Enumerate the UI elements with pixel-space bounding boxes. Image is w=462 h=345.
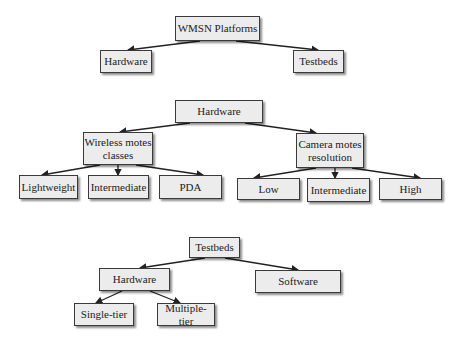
node-lightweight: Lightweight	[19, 175, 78, 199]
edge-t1-root-hardware	[128, 41, 200, 50]
edge-t2-wireless-pda	[136, 165, 203, 175]
node-label: High	[400, 183, 422, 196]
node-label: Low	[258, 183, 278, 196]
edge-t2-wireless-lightweight	[42, 165, 100, 175]
edge-t3-hardware-single	[96, 291, 122, 303]
node-label: Intermediate	[311, 184, 367, 197]
edge-t2-root-wireless	[120, 123, 190, 132]
node-pda: PDA	[159, 175, 222, 199]
edges-layer	[0, 0, 462, 345]
node-testbeds-software: Software	[255, 270, 341, 293]
node-label: Lightweight	[22, 181, 76, 194]
node-label: Intermediate	[91, 181, 147, 194]
node-high: High	[379, 178, 442, 200]
node-testbeds: Testbeds	[293, 50, 344, 73]
node-label: PDA	[179, 181, 201, 194]
edge-t3-root-software	[225, 258, 298, 270]
node-label: Multiple-tier	[158, 302, 214, 328]
node-intermediate-camera: Intermediate	[307, 178, 370, 202]
node-label: Software	[278, 275, 318, 288]
node-intermediate-wireless: Intermediate	[88, 175, 149, 199]
node-hardware: Hardware	[100, 50, 152, 73]
edge-t1-root-testbeds	[236, 41, 318, 50]
node-testbeds-root: Testbeds	[189, 237, 240, 258]
node-wmsn-platforms: WMSN Platforms	[175, 16, 260, 41]
edge-t3-root-hardware	[140, 258, 205, 268]
node-testbeds-hardware: Hardware	[99, 268, 170, 291]
edge-t2-camera-high	[352, 168, 420, 178]
node-wireless-motes-classes: Wireless motes classes	[83, 132, 153, 165]
edge-t2-root-camera	[245, 123, 316, 133]
node-label-line1: Wireless motes	[84, 136, 151, 149]
node-label-line2: resolution	[308, 151, 352, 164]
node-label: Testbeds	[299, 55, 337, 68]
node-multiple-tier: Multiple-tier	[157, 303, 215, 326]
node-label: Hardware	[104, 55, 147, 68]
diagram-canvas: WMSN Platforms Hardware Testbeds Hardwar…	[0, 0, 462, 345]
node-label: Hardware	[113, 273, 156, 286]
node-label-line2: classes	[103, 149, 134, 162]
node-low: Low	[237, 178, 300, 200]
node-camera-motes-resolution: Camera motes resolution	[296, 133, 364, 168]
edge-t2-camera-low	[254, 168, 316, 178]
node-hardware-root: Hardware	[175, 100, 263, 123]
node-label: Testbeds	[195, 241, 233, 254]
node-label: Single-tier	[81, 308, 127, 321]
node-single-tier: Single-tier	[74, 303, 134, 326]
node-label: WMSN Platforms	[178, 22, 258, 35]
node-label: Hardware	[197, 105, 240, 118]
node-label-line1: Camera motes	[298, 138, 361, 151]
